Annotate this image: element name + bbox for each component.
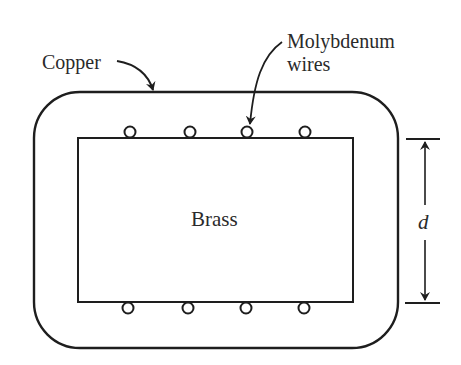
wire-circle xyxy=(241,303,252,314)
bottom-molybdenum-wires xyxy=(123,303,310,314)
brass-label: Brass xyxy=(191,207,238,231)
wire-circle xyxy=(185,127,196,138)
copper-label: Copper xyxy=(42,51,101,74)
diagram-canvas: Copper Molybdenum wires Brass d xyxy=(0,0,461,365)
molybdenum-label-line1: Molybdenum xyxy=(287,30,395,53)
copper-leader-arrow xyxy=(117,61,153,90)
wire-circle xyxy=(242,127,253,138)
cross-section-diagram: Copper Molybdenum wires Brass d xyxy=(0,0,461,365)
wire-circle xyxy=(123,303,134,314)
wire-circle xyxy=(125,127,136,138)
molybdenum-label-line2: wires xyxy=(287,53,331,75)
molybdenum-leader-arrow xyxy=(250,42,282,124)
top-molybdenum-wires xyxy=(125,127,311,138)
wire-circle xyxy=(183,303,194,314)
dimension-d-label: d xyxy=(418,210,429,234)
wire-circle xyxy=(299,303,310,314)
wire-circle xyxy=(300,127,311,138)
